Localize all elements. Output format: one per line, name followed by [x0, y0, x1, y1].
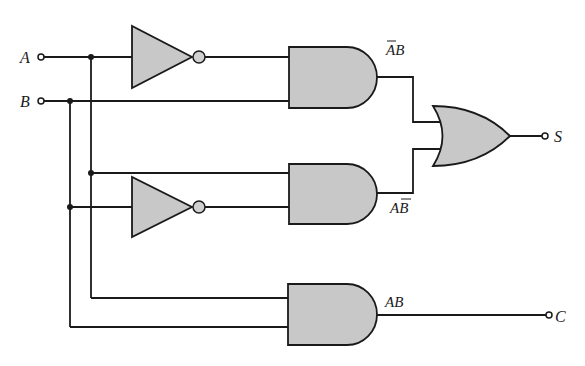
- or-gate-body: [433, 106, 510, 166]
- svg-text:AB: AB: [389, 200, 408, 216]
- output-c-label: C: [555, 308, 566, 325]
- and2-label-b: B: [399, 200, 408, 216]
- input-b-label: B: [20, 93, 30, 110]
- or-gate: [433, 106, 510, 166]
- output-c-terminal: [546, 312, 552, 318]
- wire-and1-to-or: [377, 77, 445, 122]
- and-gate-2: AB: [289, 164, 411, 224]
- junction-b-1: [67, 98, 73, 104]
- and-gate-2-body: [289, 164, 377, 224]
- input-b: B: [20, 93, 44, 110]
- svg-text:AB: AB: [385, 42, 404, 58]
- not-gate-1-bubble: [193, 51, 205, 63]
- input-b-terminal: [38, 98, 44, 104]
- and-gate-1: AB: [289, 41, 404, 108]
- input-a-terminal: [38, 54, 44, 60]
- output-s: S: [542, 128, 562, 145]
- and1-label-b: B: [395, 42, 404, 58]
- wire-and2-to-or: [377, 149, 445, 193]
- not-gate-2-body: [132, 177, 192, 237]
- half-adder-diagram: A B: [0, 0, 585, 366]
- not-gate-1: [132, 26, 205, 88]
- junction-a-2: [88, 170, 94, 176]
- not-gate-2-bubble: [193, 201, 205, 213]
- junctions: [67, 54, 94, 210]
- output-c: C: [546, 308, 566, 325]
- input-a: A: [19, 49, 44, 66]
- junction-a-1: [88, 54, 94, 60]
- and-gate-3-body: [288, 284, 377, 345]
- junction-b-2: [67, 204, 73, 210]
- and3-label: AB: [384, 294, 403, 310]
- and-gate-1-body: [289, 47, 377, 108]
- output-s-label: S: [554, 128, 562, 145]
- not-gate-1-body: [132, 26, 192, 88]
- input-a-label: A: [19, 49, 30, 66]
- not-gate-2: [132, 177, 205, 237]
- output-s-terminal: [542, 133, 548, 139]
